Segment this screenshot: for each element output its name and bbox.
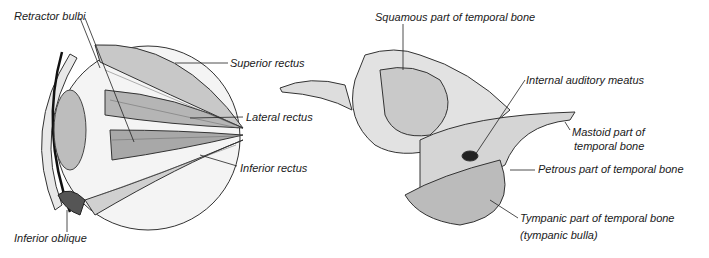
label-tympanic-bulla: (tympanic bulla) (520, 229, 598, 242)
label-inferior-rectus: Inferior rectus (240, 162, 307, 175)
eyeball-drawing (42, 45, 243, 230)
label-petrous-part: Petrous part of temporal bone (538, 163, 684, 176)
label-lateral-rectus: Lateral rectus (246, 111, 313, 124)
label-retractor-bulbi: Retractor bulbi (14, 10, 86, 23)
label-tympanic-part: Tympanic part of temporal bone (520, 212, 674, 225)
label-mastoid-part-line2: temporal bone (574, 140, 644, 153)
label-mastoid-part: Mastoid part of (572, 126, 645, 139)
label-internal-auditory-meatus: Internal auditory meatus (526, 74, 644, 87)
label-squamous-part: Squamous part of temporal bone (375, 11, 535, 24)
label-inferior-oblique: Inferior oblique (14, 232, 87, 245)
label-superior-rectus: Superior rectus (230, 57, 305, 70)
